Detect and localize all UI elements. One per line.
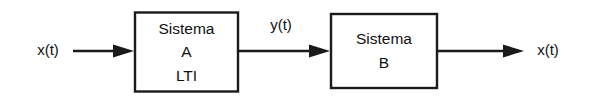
signal-label-input: x(t) [37,41,59,58]
block-diagram-canvas: Sistema A LTI Sistema B x(t) y(t) x(t) [0,0,592,105]
block-system-a-line2: A [181,43,192,60]
input-arrow-head [113,45,134,58]
block-system-a-line3: LTI [176,67,197,84]
output-arrow [437,45,524,58]
block-system-b-line2: B [379,54,389,71]
signal-label-output: x(t) [537,41,559,58]
intermediate-arrow [238,45,330,58]
block-system-b[interactable] [331,14,437,88]
output-arrow-head [503,45,524,58]
intermediate-arrow-head [309,45,330,58]
signal-label-intermediate: y(t) [270,16,292,33]
block-system-a-line1: Sistema [159,20,215,37]
input-arrow [73,45,134,58]
block-system-b-line1: Sistema [356,30,412,47]
diagram-vector-layer: Sistema A LTI Sistema B x(t) y(t) x(t) [0,0,592,105]
